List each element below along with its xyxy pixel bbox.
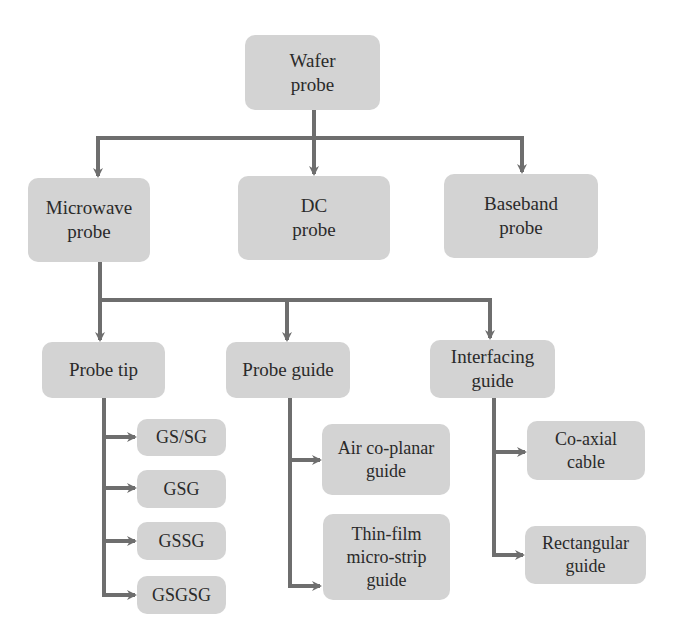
node-label: Interfacing	[451, 345, 534, 369]
node-probe-tip: Probe tip	[42, 342, 165, 398]
node-rectangular-guide: Rectangular guide	[525, 526, 646, 584]
node-gssg: GSSG	[137, 522, 226, 560]
wafer-probe-taxonomy-diagram: Wafer probe Microwave probe DC probe Bas…	[0, 0, 680, 641]
node-label: Probe tip	[69, 358, 138, 382]
node-label: Wafer	[290, 49, 336, 73]
node-label: guide	[366, 460, 406, 483]
node-microwave-probe: Microwave probe	[28, 178, 150, 262]
node-label: probe	[499, 216, 542, 240]
node-air-coplanar-guide: Air co-planar guide	[322, 424, 450, 495]
node-label: GSSG	[158, 530, 204, 553]
node-label: probe	[67, 220, 110, 244]
node-interfacing-guide: Interfacing guide	[430, 340, 555, 398]
node-label: probe	[291, 73, 334, 97]
node-label: Baseband	[484, 192, 558, 216]
node-baseband-probe: Baseband probe	[444, 174, 598, 258]
node-gs-sg: GS/SG	[137, 419, 226, 456]
node-label: Microwave	[46, 196, 133, 220]
node-label: guide	[471, 369, 513, 393]
node-label: guide	[566, 555, 606, 578]
node-gsg: GSG	[137, 470, 226, 508]
node-label: Rectangular	[542, 532, 629, 555]
node-label: DC	[301, 194, 327, 218]
node-thin-film-microstrip-guide: Thin-film micro-strip guide	[323, 514, 450, 600]
node-label: Thin-film	[352, 523, 422, 546]
node-label: Air co-planar	[338, 437, 434, 460]
node-gsgsg: GSGSG	[137, 576, 226, 614]
node-label: cable	[567, 451, 605, 474]
node-label: micro-strip	[347, 546, 427, 569]
node-probe-guide: Probe guide	[226, 342, 350, 398]
node-dc-probe: DC probe	[238, 176, 390, 260]
node-label: Co-axial	[555, 428, 617, 451]
node-label: guide	[367, 569, 407, 592]
node-label: GS/SG	[156, 426, 207, 449]
node-label: GSG	[163, 478, 199, 501]
node-wafer-probe: Wafer probe	[245, 35, 380, 110]
node-label: probe	[292, 218, 335, 242]
node-label: GSGSG	[152, 584, 211, 607]
node-label: Probe guide	[242, 358, 333, 382]
node-coaxial-cable: Co-axial cable	[527, 421, 645, 480]
